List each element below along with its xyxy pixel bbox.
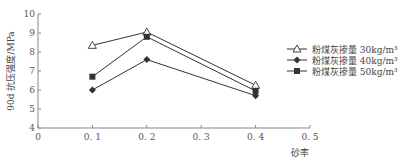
chart: 45678910 00. 10. 20. 30. 40. 5 90d 抗压强度/… — [0, 0, 416, 168]
y-tick-label: 6 — [29, 85, 35, 95]
series-line — [89, 56, 259, 99]
x-tick-label: 0. 1 — [84, 132, 101, 142]
x-axis-title: 砂率 — [291, 147, 309, 158]
triangle-marker-icon — [252, 81, 260, 88]
square-marker-icon — [144, 34, 150, 40]
x-tick-label: 0. 4 — [247, 132, 264, 142]
legend-label: 粉煤灰掺量 50kg/m³ — [312, 66, 398, 77]
diamond-marker-icon — [294, 57, 301, 64]
y-tick-label: 9 — [29, 28, 35, 38]
legend-label: 粉煤灰掺量 30kg/m³ — [312, 44, 398, 55]
legend-item: 粉煤灰掺量 30kg/m³ — [287, 44, 398, 55]
x-tick-label: 0. 5 — [301, 132, 318, 142]
diamond-marker-icon — [89, 87, 96, 94]
square-marker-icon — [89, 74, 95, 80]
y-tick-label: 7 — [29, 66, 35, 76]
x-tick-label: 0. 2 — [138, 132, 155, 142]
series-line — [89, 34, 258, 94]
square-marker-icon — [253, 88, 259, 94]
legend-item: 粉煤灰掺量 50kg/m³ — [287, 66, 398, 77]
x-tick-label: 0. 3 — [193, 132, 210, 142]
x-tick-label: 0 — [35, 132, 41, 142]
y-tick-label: 5 — [29, 104, 35, 114]
legend-item: 粉煤灰掺量 40kg/m³ — [287, 55, 398, 66]
square-marker-icon — [294, 68, 300, 74]
axes — [38, 14, 310, 128]
data-series — [88, 28, 259, 99]
y-tick-label: 8 — [29, 47, 35, 57]
legend-label: 粉煤灰掺量 40kg/m³ — [312, 55, 398, 66]
diamond-marker-icon — [143, 56, 150, 63]
legend: 粉煤灰掺量 30kg/m³粉煤灰掺量 40kg/m³粉煤灰掺量 50kg/m³ — [287, 44, 398, 77]
y-tick-label: 10 — [24, 9, 36, 19]
y-axis-title: 90d 抗压强度/MPa — [5, 31, 16, 111]
series-line — [88, 28, 259, 88]
